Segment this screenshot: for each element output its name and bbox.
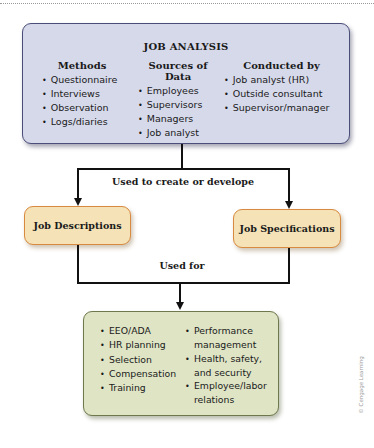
methods-column: Methods Questionnaire Interviews Observa… (42, 60, 122, 129)
list-item: Performance management (185, 324, 278, 352)
list-item: Logs/diaries (42, 115, 122, 129)
list-item: Supervisor/manager (224, 101, 339, 115)
uses-left-column: EEO/ADA HR planning Selection Compensati… (100, 324, 176, 395)
uses-right-column: Performance management Health, safety, a… (185, 324, 278, 407)
copyright-notice: © Cengage Learning (358, 350, 364, 420)
arrow-down-icon (74, 198, 82, 206)
list-item: Job analyst (HR) (224, 73, 339, 87)
list-item: Employees (138, 84, 218, 98)
job-analysis-title: JOB ANALYSIS (23, 41, 349, 52)
list-item: EEO/ADA (100, 324, 176, 338)
job-descriptions-box: Job Descriptions (24, 206, 131, 245)
arrow-down-icon (285, 201, 293, 209)
list-item: Outside consultant (224, 87, 339, 101)
list-item: Job analyst (138, 126, 218, 140)
used-to-create-label: Used to create or develope (112, 176, 248, 187)
connector-line (288, 248, 290, 284)
connector-line (77, 168, 79, 199)
list-item: Compensation (100, 367, 176, 381)
arrow-down-icon (176, 302, 184, 310)
list-item: Supervisors (138, 98, 218, 112)
connector-line (288, 168, 290, 202)
conducted-by-heading: Conducted by (224, 60, 339, 71)
list-item: Questionnaire (42, 73, 122, 87)
job-analysis-box: JOB ANALYSIS Methods Questionnaire Inter… (22, 23, 350, 144)
top-dotted-rule (0, 3, 374, 4)
connector-line (77, 168, 290, 170)
sources-column: Sources of Data Employees Supervisors Ma… (138, 60, 218, 140)
used-for-label: Used for (150, 260, 214, 271)
job-specifications-box: Job Specifications (233, 209, 341, 248)
list-item: Observation (42, 101, 122, 115)
connector-line (77, 282, 290, 284)
uses-box: EEO/ADA HR planning Selection Compensati… (83, 311, 279, 416)
list-item: HR planning (100, 338, 176, 352)
methods-heading: Methods (42, 60, 122, 71)
conducted-by-column: Conducted by Job analyst (HR) Outside co… (224, 60, 339, 115)
list-item: Training (100, 381, 176, 395)
list-item: Interviews (42, 87, 122, 101)
list-item: Health, safety, and security (185, 352, 278, 380)
list-item: Employee/labor relations (185, 379, 278, 407)
list-item: Managers (138, 112, 218, 126)
connector-line (181, 144, 183, 170)
connector-line (77, 245, 79, 284)
connector-line (179, 282, 181, 303)
list-item: Selection (100, 353, 176, 367)
sources-heading: Sources of Data (138, 60, 218, 82)
